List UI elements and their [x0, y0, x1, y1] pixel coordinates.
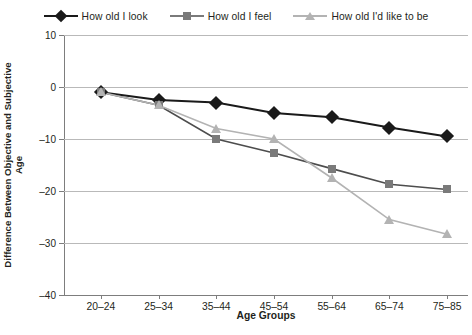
series-lines [64, 35, 468, 296]
y-tick-label--40: –40 [39, 290, 56, 301]
data-point-square-6 [443, 185, 451, 193]
legend-item-how-old-i-feel: How old I feel [170, 10, 272, 22]
data-point-triangle-4 [327, 173, 337, 182]
legend-marker-diamond-icon [44, 10, 78, 22]
data-point-triangle-3 [269, 134, 279, 143]
x-axis-title: Age Groups [64, 310, 468, 321]
legend-item-how-old-id-like-to-be: How old I'd like to be [293, 10, 428, 22]
legend-marker-square-icon [170, 10, 204, 22]
plot-area: 100–10–20–30–40 20–2425–3435–4445–5455–6… [64, 35, 468, 295]
data-point-square-4 [328, 165, 336, 173]
y-tick-label-0: 0 [50, 82, 56, 93]
chart-legend: How old I look How old I feel How old I'… [0, 6, 472, 26]
data-point-triangle-0 [96, 87, 106, 96]
data-point-triangle-1 [154, 100, 164, 109]
legend-marker-triangle-icon [293, 10, 327, 22]
data-point-triangle-2 [211, 124, 221, 133]
y-axis-title-line-1: Difference Between Objective and Subject… [2, 62, 13, 267]
y-tick-label--20: –20 [39, 186, 56, 197]
y-tick-label-10: 10 [45, 30, 56, 41]
legend-label-1: How old I feel [208, 11, 272, 22]
diamond-icon [54, 10, 67, 23]
y-axis-title: Difference Between Objective and Subject… [2, 35, 24, 295]
y-tick-label--10: –10 [39, 134, 56, 145]
triangle-icon [305, 12, 315, 20]
chart-container: How old I look How old I feel How old I'… [0, 0, 472, 335]
y-tick-label--30: –30 [39, 238, 56, 249]
data-point-triangle-5 [384, 215, 394, 224]
square-icon [183, 12, 191, 20]
legend-label-2: How old I'd like to be [331, 11, 428, 22]
data-point-square-2 [212, 135, 220, 143]
data-point-square-5 [385, 180, 393, 188]
data-point-triangle-6 [442, 229, 452, 238]
legend-label-0: How old I look [82, 11, 148, 22]
legend-item-how-old-i-look: How old I look [44, 10, 148, 22]
y-axis-title-line-2: Age [13, 156, 24, 174]
data-point-square-3 [270, 149, 278, 157]
